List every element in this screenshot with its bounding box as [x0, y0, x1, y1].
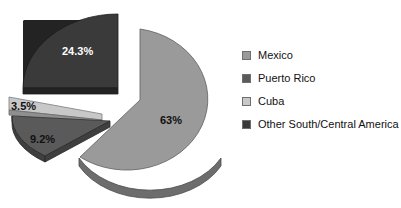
legend-item-puerto-rico[interactable]: Puerto Rico — [242, 67, 400, 90]
legend-label-other-south-central-america: Other South/Central America — [258, 119, 399, 130]
legend-label-mexico: Mexico — [258, 50, 293, 61]
legend-item-cuba[interactable]: Cuba — [242, 90, 400, 113]
legend-label-cuba: Cuba — [258, 96, 284, 107]
legend-swatch-puerto-rico — [242, 74, 251, 83]
legend-swatch-cuba — [242, 97, 251, 106]
slice-label-other-percent: 24.3% — [62, 45, 93, 57]
legend-swatch-mexico — [242, 51, 251, 60]
slice-label-puerto-rico-percent: 9.2% — [30, 133, 55, 145]
slice-label-cuba-percent: 3.5% — [11, 100, 36, 112]
legend-item-mexico[interactable]: Mexico — [242, 44, 400, 67]
slice-label-mexico-percent: 63% — [160, 114, 182, 126]
chart-legend: Mexico Puerto Rico Cuba Other South/Cent… — [242, 44, 400, 136]
pie-slice-other-side — [23, 88, 118, 94]
pie-chart: 24.3% 3.5% 9.2% 63% Mexico Puerto Rico C… — [0, 0, 401, 208]
legend-item-other-south-central-america[interactable]: Other South/Central America — [242, 113, 400, 136]
legend-label-puerto-rico: Puerto Rico — [258, 73, 315, 84]
legend-swatch-other-south-central-america — [242, 120, 251, 129]
